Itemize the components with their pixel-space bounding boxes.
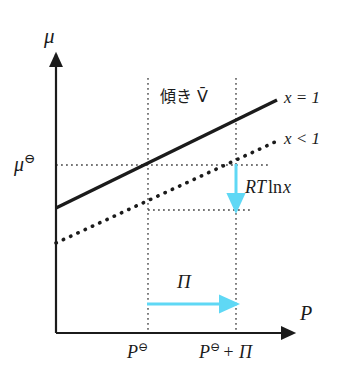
rt-ln-x-annotation: RTlnx [245,178,291,196]
x-axis-label: P [300,303,312,323]
standard-state-symbol-icon: ⊖ [210,340,220,354]
slope-annotation: 傾き V̄ [160,89,208,105]
standard-state-symbol-icon: ⊖ [138,340,148,354]
rt-ln-x-operator: ln [266,177,283,197]
x-tick-label-p-standard: P⊖ [127,341,148,361]
osmotic-pressure-annotation: Π [177,272,191,291]
y-tick-label-mu-standard: μ⊖ [14,152,35,174]
rt-ln-x-argument: x [283,177,291,197]
x-tick-p-base: P [199,342,210,362]
x-tick-p-tail: + Π [220,342,253,362]
rt-ln-x-base: RT [245,177,266,197]
legend-label-x-less-than-1: x < 1 [284,130,320,147]
standard-state-symbol-icon: ⊖ [24,151,35,166]
x-tick-p-base: P [127,342,138,362]
x-tick-label-p-standard-plus-pi: P⊖+ Π [199,341,253,361]
legend-label-x-equals-1: x = 1 [284,89,320,106]
y-axis-label: μ [44,26,55,47]
y-tick-mu-base: μ [14,153,24,175]
osmosis-chemical-potential-figure: μ P μ⊖ 傾き V̄ x = 1 x < 1 RTlnx Π P⊖ P⊖+ … [0,0,342,390]
